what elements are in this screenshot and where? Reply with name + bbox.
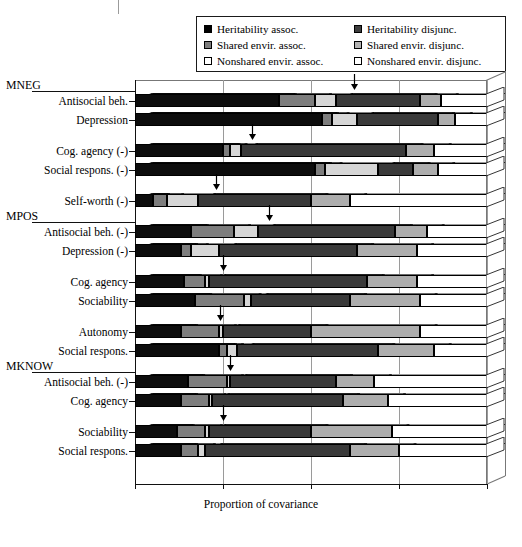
x-tick: [135, 484, 136, 489]
bar-segment-shared-envir-disjunc: [311, 194, 350, 207]
legend-label: Nonshared envir. assoc.: [217, 55, 323, 67]
marker-arrow-icon: [265, 205, 274, 221]
legend-label: Shared envir. assoc.: [217, 39, 306, 51]
marker-arrow-icon: [216, 305, 225, 321]
bar-segment-heritability-disjunc: [198, 194, 311, 207]
bar-segment-heritability-assoc: [135, 194, 153, 207]
group-rule: [32, 91, 135, 92]
legend-label: Heritability disjunc.: [367, 23, 456, 35]
bar-segment-nonshared-envir-disjunc: [455, 113, 487, 126]
bar-segment-nonshared-envir-assoc: [325, 163, 378, 176]
bar-segment-heritability-assoc: [135, 394, 181, 407]
marker-arrow-icon: [350, 74, 359, 90]
bar-segment-nonshared-envir-assoc: [191, 244, 219, 257]
legend-swatch-icon: [354, 41, 362, 49]
bar-segment-shared-envir-assoc: [181, 244, 192, 257]
row-label: Cog. agency (-): [0, 145, 135, 157]
bar-segment-nonshared-envir-assoc: [167, 194, 199, 207]
legend-swatch-icon: [204, 57, 212, 65]
bar-segment-heritability-disjunc: [357, 113, 438, 126]
bar-segment-shared-envir-assoc: [153, 194, 167, 207]
legend-swatch-icon: [204, 25, 212, 33]
bar-segment-shared-envir-assoc: [219, 344, 226, 357]
legend-label: Shared envir. disjunc.: [367, 39, 464, 51]
group-label: MPOS: [2, 210, 135, 222]
row-label: Cog. agency: [0, 276, 135, 288]
group-rule: [32, 372, 135, 373]
x-tick: [487, 484, 488, 489]
bar-segment-nonshared-envir-disjunc: [438, 163, 487, 176]
bar-end-cap: [486, 237, 506, 262]
bar-end-cap: [486, 106, 506, 131]
bar-segment-shared-envir-disjunc: [413, 163, 438, 176]
row-label: Antisocial beh.: [0, 95, 135, 107]
x-tick: [311, 484, 312, 489]
bar-segment-nonshared-envir-assoc: [244, 294, 251, 307]
bar-segment-shared-envir-disjunc: [438, 113, 456, 126]
plot-area: 00.250.500.751 MNEGAntisocial beh.Depres…: [0, 80, 522, 495]
bar-segment-nonshared-envir-disjunc: [417, 244, 487, 257]
bar-segment-heritability-assoc: [135, 294, 195, 307]
bar-segment-nonshared-envir-disjunc: [420, 294, 487, 307]
legend-swatch-icon: [354, 25, 362, 33]
x-axis-label: Proportion of covariance: [0, 498, 522, 510]
bar-segment-heritability-disjunc: [251, 294, 350, 307]
legend-swatch-icon: [204, 41, 212, 49]
legend-label: Heritability assoc.: [217, 23, 298, 35]
bar-segment-heritability-disjunc: [237, 344, 378, 357]
row-label: Depression (-): [0, 245, 135, 257]
bar-segment-heritability-assoc: [135, 163, 315, 176]
group-rule: [32, 222, 135, 223]
legend-item: Heritability assoc.: [204, 23, 354, 35]
row-label: Social respons.: [0, 445, 135, 457]
row-label: Depression: [0, 114, 135, 126]
bar-end-cap: [486, 387, 506, 412]
x-tick: [399, 484, 400, 489]
page-rule: [118, 0, 119, 14]
row-label: Social respons.: [0, 345, 135, 357]
bar-segment-heritability-disjunc: [219, 244, 356, 257]
bar-segment-shared-envir-disjunc: [350, 444, 399, 457]
bar-segment-shared-envir-disjunc: [343, 394, 389, 407]
row-label: Self-worth (-): [0, 195, 135, 207]
bar-segment-nonshared-envir-disjunc: [350, 194, 487, 207]
marker-arrow-icon: [219, 405, 228, 421]
row-label: Sociability: [0, 426, 135, 438]
bar-segment-heritability-disjunc: [205, 444, 349, 457]
bar-segment-heritability-assoc: [135, 344, 219, 357]
row-label: Cog. agency: [0, 395, 135, 407]
bar-end-cap: [486, 187, 506, 212]
legend-item: Nonshared envir. assoc.: [204, 55, 354, 67]
group-label: MKNOW: [2, 360, 135, 372]
marker-arrow-icon: [226, 355, 235, 371]
bar-segment-nonshared-envir-disjunc: [399, 444, 487, 457]
legend-swatch-icon: [354, 57, 362, 65]
bar-segment-heritability-assoc: [135, 244, 181, 257]
legend-item: Heritability disjunc.: [354, 23, 504, 35]
marker-arrow-icon: [248, 124, 257, 140]
x-tick: [223, 484, 224, 489]
row-label: Autonomy: [0, 326, 135, 338]
bar-segment-nonshared-envir-assoc: [332, 113, 357, 126]
legend-item: Nonshared envir. disjunc.: [354, 55, 504, 67]
bar-end-cap: [486, 287, 506, 312]
bar-end-cap: [486, 337, 506, 362]
row-label: Antisocial beh. (-): [0, 226, 135, 238]
bar-segment-nonshared-envir-assoc: [198, 444, 205, 457]
bar-segment-nonshared-envir-disjunc: [434, 344, 487, 357]
row-label: Social respons. (-): [0, 164, 135, 176]
bar-segment-shared-envir-assoc: [322, 113, 333, 126]
bar-segment-heritability-assoc: [135, 113, 322, 126]
plot-depth-top: [486, 72, 506, 81]
marker-arrow-icon: [212, 174, 221, 190]
bar-end-cap: [486, 437, 506, 462]
bar-segment-heritability-disjunc: [378, 163, 413, 176]
chart-root: Heritability assoc.Heritability disjunc.…: [0, 0, 522, 547]
bar-segment-shared-envir-assoc: [181, 394, 209, 407]
bar-segment-shared-envir-disjunc: [357, 244, 417, 257]
legend-item: Shared envir. disjunc.: [354, 39, 504, 51]
bar-segment-nonshared-envir-disjunc: [388, 394, 487, 407]
bar-segment-shared-envir-assoc: [315, 163, 326, 176]
group-label: MNEG: [2, 79, 135, 91]
bar-segment-heritability-assoc: [135, 444, 181, 457]
